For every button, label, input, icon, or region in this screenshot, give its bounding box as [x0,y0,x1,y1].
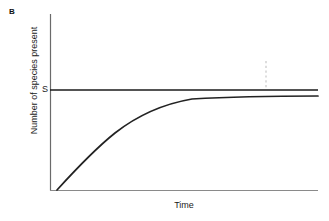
plot-area [0,0,329,221]
species-accumulation-curve [57,96,318,190]
figure-panel-b: B Number of species present Time S [0,0,329,221]
